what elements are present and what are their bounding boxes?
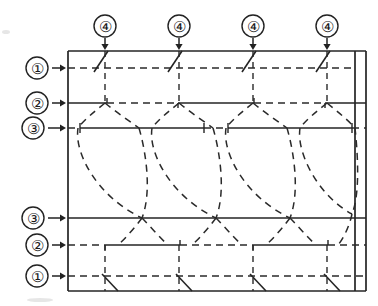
hourglass-profiles [78,103,358,245]
callout-label: ④ [321,19,334,35]
callout-1-top: ① [26,57,66,79]
callout-arrow-head [60,272,66,279]
callout-2-top: ② [26,92,66,114]
layer-line-2-bottom [68,240,366,250]
callout-arrow-head [175,44,182,50]
callout-label: ② [31,238,44,254]
callout-1-bottom: ① [26,265,66,287]
layer-line-3-top [68,123,366,133]
callout-2-bottom: ② [26,234,66,256]
callout-label: ② [31,96,44,112]
left-callouts: ①②③③②① [22,57,66,287]
callout-3-bottom: ③ [22,207,66,229]
callout-label: ④ [247,19,260,35]
callout-label: ① [31,61,44,77]
callout-arrow-head [323,44,330,50]
callout-label: ④ [173,19,186,35]
figure-container: ①②③③②① ④④④④ [0,0,378,306]
callout-arrow-head [60,214,66,221]
callout-arrow-head [60,64,66,71]
callout-arrow-head [101,44,108,50]
callout-4-d: ④ [316,15,338,50]
callout-label: ③ [27,121,40,137]
callout-arrow-head [249,44,256,50]
vertical-dashed-bottom [105,245,327,291]
callout-4-c: ④ [242,15,264,50]
callout-label: ④ [99,19,112,35]
diagram-frame [68,51,366,291]
callout-4-a: ④ [94,15,116,50]
callout-4-b: ④ [168,15,190,50]
callout-arrow-head [60,99,66,106]
callout-arrow-head [60,241,66,248]
scan-artifacts [2,30,53,302]
vertical-dashed-top [105,51,327,103]
top-callouts: ④④④④ [94,15,338,50]
diagram-svg: ①②③③②① ④④④④ [0,0,378,306]
callout-label: ③ [27,211,40,227]
layer-line-2-top [68,98,366,108]
hatch-marks-top [94,51,330,72]
callout-arrow-head [60,124,66,131]
callout-label: ① [31,269,44,285]
hatch-marks-bottom [102,274,340,291]
callout-3-top: ③ [22,117,66,139]
